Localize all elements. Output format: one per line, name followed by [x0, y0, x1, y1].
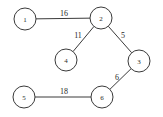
edge-weight-5-6: 18: [60, 87, 68, 96]
graph-node-4: 4: [55, 49, 77, 71]
edge-weight-2-3: 5: [121, 31, 125, 40]
graph-edge-3-6: [110, 69, 131, 90]
node-label-5: 5: [22, 94, 26, 102]
graph-edge-2-3: [108, 26, 131, 53]
graph-node-2: 2: [90, 7, 112, 29]
graph-node-3: 3: [128, 50, 150, 72]
node-label-3: 3: [137, 58, 141, 66]
node-layer: 123456: [13, 7, 150, 108]
node-label-4: 4: [64, 57, 68, 65]
graph-diagram: 16115618 123456: [0, 0, 163, 117]
node-label-6: 6: [100, 94, 104, 102]
graph-node-5: 5: [13, 86, 35, 108]
edge-layer: [35, 18, 132, 97]
graph-node-1: 1: [14, 8, 36, 30]
edge-weight-1-2: 16: [60, 9, 68, 18]
edge-weight-3-6: 6: [115, 73, 119, 82]
node-label-1: 1: [23, 16, 27, 24]
edge-weight-2-4: 11: [74, 31, 82, 40]
graph-edge-1-2: [36, 18, 90, 19]
graph-node-6: 6: [91, 86, 113, 108]
node-label-2: 2: [99, 15, 103, 23]
graph-canvas: 16115618 123456: [0, 0, 163, 117]
